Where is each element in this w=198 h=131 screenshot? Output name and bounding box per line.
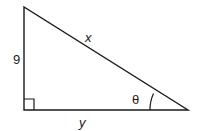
triangle	[24, 7, 188, 110]
hypotenuse-label: x	[84, 30, 92, 45]
angle-arc	[150, 94, 154, 111]
vertical-side-label: 9	[13, 52, 20, 67]
angle-label: θ	[132, 92, 139, 107]
horizontal-side-label: y	[78, 115, 87, 130]
right-angle-marker	[24, 99, 34, 110]
triangle-diagram: 9 x y θ	[0, 0, 198, 131]
